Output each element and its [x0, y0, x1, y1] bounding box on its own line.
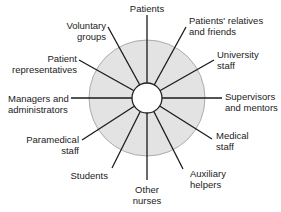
node-label-line1: Voluntary — [50, 20, 106, 31]
node-medical-staff: Medical staff — [216, 130, 249, 152]
node-supervisors: Supervisors and mentors — [225, 91, 278, 113]
node-label: Patients — [130, 3, 164, 14]
node-label-line1: Other — [127, 184, 167, 195]
node-label-line1: Medical — [216, 130, 249, 141]
node-label-line2: groups — [50, 31, 106, 42]
node-label-line1: Auxiliary — [190, 168, 226, 179]
node-university-staff: University staff — [217, 49, 259, 71]
node-label-line1: Students — [60, 170, 108, 181]
node-label-line1: Supervisors — [225, 91, 278, 102]
node-label-line1: Patients' relatives — [189, 15, 263, 26]
node-label-line1: Paramedical — [20, 134, 79, 145]
node-other-nurses: Other nurses — [127, 184, 167, 206]
node-label-line1: Patient — [5, 53, 77, 64]
inner-circle — [132, 83, 162, 113]
node-patients: Patients — [124, 3, 170, 14]
node-patients-relatives: Patients' relatives and friends — [189, 15, 263, 37]
node-students: Students — [60, 170, 108, 181]
node-label-line2: representatives — [5, 64, 77, 75]
node-label-line1: Managers and — [8, 93, 69, 104]
node-label-line2: helpers — [190, 179, 226, 190]
node-label-line2: staff — [216, 141, 249, 152]
node-label-line1: University — [217, 49, 259, 60]
node-auxiliary-helpers: Auxiliary helpers — [190, 168, 226, 190]
node-label-line2: administrators — [8, 104, 69, 115]
node-label-line2: and friends — [189, 26, 263, 37]
node-voluntary-groups: Voluntary groups — [50, 20, 106, 42]
node-label-line2: nurses — [127, 195, 167, 206]
node-label-line2: staff — [217, 60, 259, 71]
node-paramedical-staff: Paramedical staff — [20, 134, 79, 156]
node-managers: Managers and administrators — [8, 93, 69, 115]
node-label-line2: and mentors — [225, 102, 278, 113]
node-label-line2: staff — [20, 145, 79, 156]
node-patient-representatives: Patient representatives — [5, 53, 77, 75]
